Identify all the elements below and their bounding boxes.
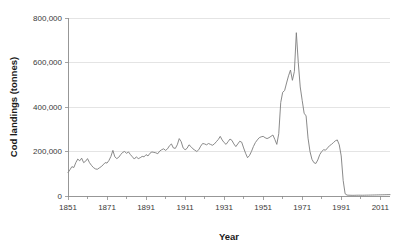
x-tick-label: 1931 xyxy=(215,203,233,212)
y-axis-title: Cod landings (tonnes) xyxy=(8,57,19,157)
y-tick-label: 600,000 xyxy=(33,58,62,67)
x-tick-label: 1871 xyxy=(98,203,116,212)
y-tick-label: 200,000 xyxy=(33,147,62,156)
x-tick-label: 1911 xyxy=(176,203,194,212)
y-tick-label: 400,000 xyxy=(33,103,62,112)
x-tick-label: 2011 xyxy=(372,203,390,212)
chart-canvas: 185118711891191119311951197119912011 020… xyxy=(0,0,412,249)
x-axis-title: Year xyxy=(219,231,239,242)
x-tick-label: 1971 xyxy=(293,203,311,212)
x-tick-labels: 185118711891191119311951197119912011 xyxy=(59,203,389,212)
x-tick-label: 1991 xyxy=(332,203,350,212)
x-tick-label: 1891 xyxy=(137,203,155,212)
cod-landings-chart: 185118711891191119311951197119912011 020… xyxy=(0,0,412,249)
y-tick-label: 0 xyxy=(58,192,63,201)
x-tick-label: 1851 xyxy=(59,203,77,212)
y-tick-label: 800,000 xyxy=(33,14,62,23)
x-tick-label: 1951 xyxy=(254,203,272,212)
